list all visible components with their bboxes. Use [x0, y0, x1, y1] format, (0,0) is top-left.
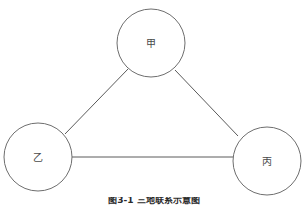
node-yi: 乙: [4, 123, 72, 191]
triangle-node-diagram: 甲 乙 丙: [0, 0, 308, 205]
figure-caption-strip: 图3-1 三地联系示意图: [0, 197, 308, 205]
edge-jia-yi: [65, 69, 128, 134]
node-label-jia: 甲: [146, 38, 156, 49]
node-label-yi: 乙: [33, 152, 43, 163]
figure-container: 甲 乙 丙 图3-1 三地联系示意图: [0, 0, 308, 205]
node-bing: 丙: [233, 127, 301, 195]
node-jia: 甲: [117, 9, 185, 77]
figure-caption: 图3-1 三地联系示意图: [0, 197, 308, 205]
edge-jia-bing: [175, 70, 238, 136]
node-label-bing: 丙: [262, 156, 272, 167]
